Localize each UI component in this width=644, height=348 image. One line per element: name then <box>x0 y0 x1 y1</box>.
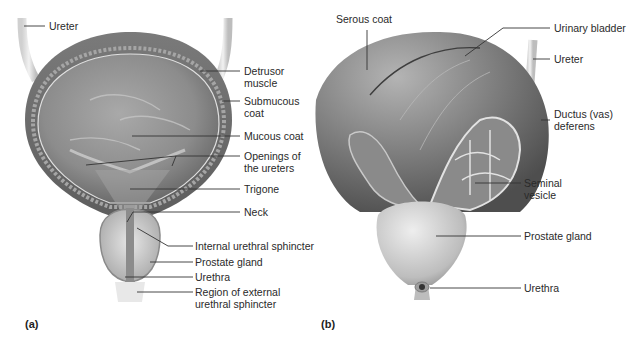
label-urinary-bladder: Urinary bladder <box>554 22 626 34</box>
label-seminal-vesicle: Seminal vesicle <box>524 177 562 201</box>
label-ureter-b: Ureter <box>554 53 583 65</box>
label-submucous-coat: Submucous coat <box>244 95 299 119</box>
label-mucous-coat: Mucous coat <box>244 130 304 142</box>
label-trigone: Trigone <box>244 183 279 195</box>
label-ureter-a: Ureter <box>49 20 78 32</box>
label-urethra-b: Urethra <box>524 282 559 294</box>
label-prostate-gland-b: Prostate gland <box>524 230 592 242</box>
panel-label-b: (b) <box>321 318 335 330</box>
label-internal-urethral-sphincter: Internal urethral sphincter <box>195 240 314 252</box>
panel-b-artwork <box>315 10 548 300</box>
bladder-illustration <box>0 0 644 348</box>
label-openings-of-ureters: Openings of the ureters <box>244 150 301 174</box>
label-serous-coat: Serous coat <box>336 13 392 25</box>
label-detrusor-muscle: Detrusor muscle <box>244 65 284 89</box>
label-urethra-a: Urethra <box>195 271 230 283</box>
label-neck: Neck <box>244 206 268 218</box>
label-prostate-gland-a: Prostate gland <box>195 256 263 268</box>
label-region-external-sphincter: Region of external urethral sphincter <box>195 286 280 310</box>
panel-label-a: (a) <box>25 318 38 330</box>
label-ductus-deferens: Ductus (vas) deferens <box>554 108 613 132</box>
